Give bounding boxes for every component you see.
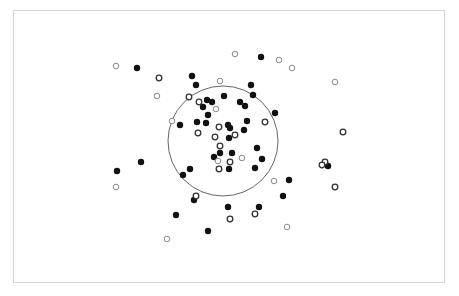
open-point-marker xyxy=(154,93,160,99)
filled-point-marker xyxy=(187,166,193,172)
scatter-plot xyxy=(0,0,459,296)
filled-point-marker xyxy=(250,92,256,98)
filled-point-marker xyxy=(244,118,250,124)
open-point-marker xyxy=(227,159,233,165)
filled-point-marker xyxy=(114,168,120,174)
filled-point-marker xyxy=(217,150,223,156)
filled-point-marker xyxy=(272,110,278,116)
reference-circle xyxy=(168,86,278,196)
filled-point-marker xyxy=(227,125,233,131)
open-point-marker xyxy=(332,79,338,85)
filled-point-marker xyxy=(194,119,200,125)
filled-point-marker xyxy=(286,177,292,183)
filled-point-marker xyxy=(229,150,235,156)
filled-point-marker xyxy=(138,159,144,165)
filled-point-marker xyxy=(205,228,211,234)
open-point-marker xyxy=(216,124,222,130)
filled-point-marker xyxy=(226,166,232,172)
open-point-marker xyxy=(215,158,221,164)
open-point-marker xyxy=(271,178,277,184)
open-point-marker xyxy=(332,184,338,190)
filled-point-marker xyxy=(256,204,262,210)
open-point-marker xyxy=(262,119,268,125)
open-point-marker xyxy=(216,166,222,172)
filled-point-marker xyxy=(258,54,264,60)
open-point-marker xyxy=(276,57,282,63)
filled-point-marker xyxy=(205,112,211,118)
open-point-marker xyxy=(289,65,295,71)
filled-point-marker xyxy=(173,212,179,218)
filled-point-marker xyxy=(254,145,260,151)
open-point-marker xyxy=(319,162,325,168)
open-point-marker xyxy=(217,143,223,149)
open-point-marker xyxy=(212,134,218,140)
open-point-marker xyxy=(193,193,199,199)
series-open-light xyxy=(113,51,338,242)
open-point-marker xyxy=(227,216,233,222)
open-point-marker xyxy=(232,132,238,138)
open-point-marker xyxy=(252,211,258,217)
open-point-marker xyxy=(213,106,219,112)
open-point-marker xyxy=(217,78,223,84)
filled-point-marker xyxy=(193,82,199,88)
filled-point-marker xyxy=(241,127,247,133)
filled-point-marker xyxy=(177,122,183,128)
open-point-marker xyxy=(156,75,162,81)
open-point-marker xyxy=(164,236,170,242)
filled-point-marker xyxy=(280,193,286,199)
open-point-marker xyxy=(113,184,119,190)
open-point-marker xyxy=(239,155,245,161)
open-point-marker xyxy=(195,130,201,136)
filled-point-marker xyxy=(209,99,215,105)
filled-point-marker xyxy=(134,65,140,71)
filled-point-marker xyxy=(252,165,258,171)
open-point-marker xyxy=(340,129,346,135)
filled-point-marker xyxy=(180,172,186,178)
filled-point-marker xyxy=(237,99,243,105)
filled-point-marker xyxy=(203,120,209,126)
open-point-marker xyxy=(186,94,192,100)
open-point-marker xyxy=(284,224,290,230)
open-point-marker xyxy=(196,99,202,105)
filled-point-marker xyxy=(248,82,254,88)
filled-point-marker xyxy=(242,103,248,109)
open-point-marker xyxy=(113,63,119,69)
filled-point-marker xyxy=(225,204,231,210)
filled-point-marker xyxy=(226,135,232,141)
data-points xyxy=(113,51,346,242)
open-point-marker xyxy=(232,51,238,57)
filled-point-marker xyxy=(189,73,195,79)
chart-page xyxy=(0,0,459,296)
open-point-marker xyxy=(169,118,175,124)
filled-point-marker xyxy=(221,93,227,99)
filled-point-marker xyxy=(259,156,265,162)
